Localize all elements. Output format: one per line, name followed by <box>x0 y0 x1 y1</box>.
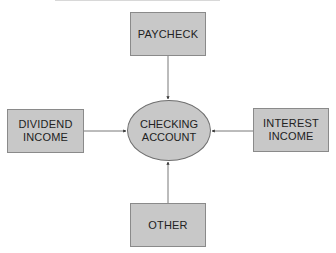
node-interest-label-1: INTEREST <box>263 117 319 130</box>
node-dividend-label-1: DIVIDEND <box>18 118 72 131</box>
node-dividend-income: DIVIDEND INCOME <box>7 109 84 153</box>
node-interest-label-2: INCOME <box>263 130 319 143</box>
node-paycheck-label: PAYCHECK <box>138 28 198 41</box>
node-paycheck: PAYCHECK <box>130 12 206 56</box>
node-other: OTHER <box>130 203 206 247</box>
node-checking-account: CHECKING ACCOUNT <box>127 100 211 161</box>
center-label-2: ACCOUNT <box>140 131 198 144</box>
center-label-1: CHECKING <box>140 118 198 131</box>
node-other-label: OTHER <box>148 219 188 232</box>
node-interest-income: INTEREST INCOME <box>253 108 329 152</box>
node-dividend-label-2: INCOME <box>18 131 72 144</box>
